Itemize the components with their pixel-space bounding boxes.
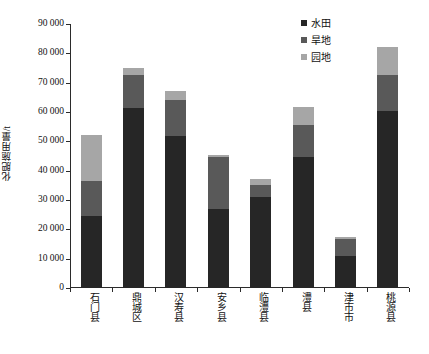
y-axis-tick [66,141,70,142]
bar-segment[interactable] [335,237,356,239]
x-axis-category-label: 临澧县 [253,292,269,322]
bar-group[interactable] [208,155,229,288]
legend-swatch-icon [301,54,307,60]
legend-item[interactable]: 水田 [301,17,381,29]
y-axis-tick-label: 70 000 [14,78,64,88]
y-axis-tick [66,53,70,54]
y-axis-tick [66,83,70,84]
x-axis-category-label: 津市市 [337,292,353,322]
bar-group[interactable] [81,135,102,288]
y-axis-tick-label: 10 000 [14,254,64,264]
x-axis-category-label: 汉寿县 [168,292,184,322]
stacked-bar-chart: 化肥施用量/t 010 00020 00030 00040 00050 0006… [0,0,429,354]
legend-label: 园地 [311,52,331,63]
bar-segment[interactable] [81,216,102,288]
bar-segment[interactable] [250,197,271,288]
bar-group[interactable] [377,47,398,288]
legend-label: 旱地 [311,35,331,46]
legend-swatch-icon [301,37,307,43]
x-axis-category-label: 安乡县 [210,292,226,322]
bar-segment[interactable] [81,181,102,216]
y-axis-tick-label: 0 [14,283,64,293]
y-axis-tick-label: 40 000 [14,166,64,176]
bar-segment[interactable] [293,157,314,288]
y-axis-tick [66,259,70,260]
y-axis-tick [66,171,70,172]
y-axis-tick-label: 90 000 [14,19,64,29]
bar-segment[interactable] [165,100,186,136]
chart-legend: 水田旱地园地 [301,17,381,68]
bar-segment[interactable] [165,91,186,100]
legend-item[interactable]: 旱地 [301,34,381,46]
bar-segment[interactable] [165,136,186,288]
bar-segment[interactable] [335,256,356,288]
bar-segment[interactable] [250,185,271,197]
bar-segment[interactable] [123,108,144,288]
y-axis-tick [66,200,70,201]
bar-group[interactable] [165,91,186,288]
legend-item[interactable]: 园地 [301,51,381,63]
y-axis-tick-label: 60 000 [14,107,64,117]
y-axis-tick [66,112,70,113]
bar-segment[interactable] [335,239,356,256]
x-axis-category-labels: 石门县鼎城区汉寿县安乡县临澧县澧县津市市桃源县 [70,292,409,350]
bar-segment[interactable] [293,125,314,157]
x-axis-tick [409,288,410,292]
x-axis-category-label: 澧县 [295,292,311,312]
x-axis-category-label: 鼎城区 [126,292,142,322]
x-axis-category-label: 石门县 [83,292,99,322]
bar-group[interactable] [250,179,271,288]
bar-segment[interactable] [208,157,229,209]
bar-group[interactable] [293,107,314,288]
bar-segment[interactable] [123,75,144,108]
legend-label: 水田 [311,18,331,29]
bar-segment[interactable] [81,135,102,180]
bar-segment[interactable] [377,111,398,288]
bar-segment[interactable] [377,75,398,112]
bar-segment[interactable] [250,179,271,185]
y-axis-tick-label: 20 000 [14,225,64,235]
y-axis-tick [66,24,70,25]
bar-segment[interactable] [123,68,144,75]
bar-group[interactable] [123,68,144,288]
y-axis-tick-labels: 010 00020 00030 00040 00050 00060 00070 … [14,24,64,288]
legend-swatch-icon [301,20,307,26]
y-axis-tick-label: 30 000 [14,195,64,205]
bar-segment[interactable] [208,155,229,157]
y-axis-tick [66,229,70,230]
bar-segment[interactable] [293,107,314,125]
bar-group[interactable] [335,237,356,288]
bar-segment[interactable] [208,209,229,288]
y-axis-tick-label: 80 000 [14,49,64,59]
y-axis-tick-label: 50 000 [14,137,64,147]
x-axis-category-label: 桃源县 [380,292,396,322]
